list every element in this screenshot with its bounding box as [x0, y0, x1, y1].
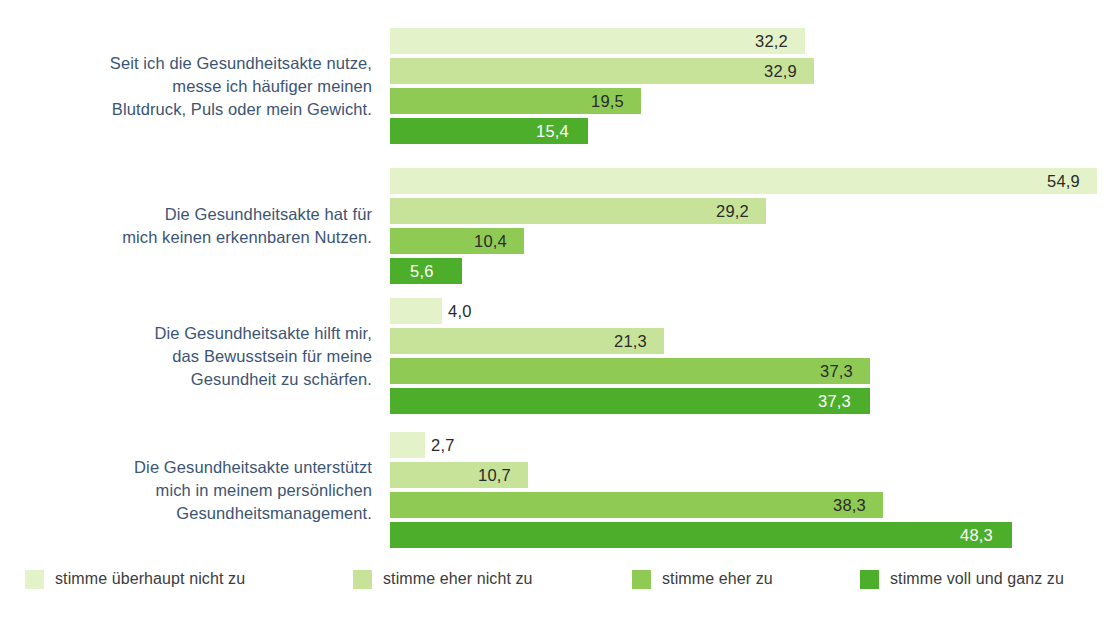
category-label: Die Gesundheitsakte hat fürmich keinen e…: [0, 203, 372, 249]
legend-item[interactable]: stimme überhaupt nicht zu: [25, 566, 245, 592]
bar-value-label: 38,3: [833, 492, 866, 518]
bar-value-label: 21,3: [614, 328, 647, 354]
bar: [390, 198, 766, 224]
category-label: Die Gesundheitsakte unterstütztmich in m…: [0, 456, 372, 525]
category-label-line: das Bewusstsein für meine: [0, 345, 372, 368]
category-label: Seit ich die Gesundheitsakte nutze,messe…: [0, 52, 372, 121]
legend-item[interactable]: stimme eher zu: [632, 566, 773, 592]
bar-group: Die Gesundheitsakte unterstütztmich in m…: [0, 432, 1115, 548]
bar-value-label: 10,4: [474, 228, 507, 254]
bar: [390, 168, 1097, 194]
bar-value-label: 10,7: [478, 462, 511, 488]
bar-value-label: 15,4: [536, 118, 569, 144]
category-label-line: messe ich häufiger meinen: [0, 75, 372, 98]
bar-value-label: 32,2: [755, 28, 788, 54]
bar-value-label: 5,6: [410, 258, 434, 284]
category-label-line: Gesundheitsmanagement.: [0, 502, 372, 525]
bar-value-label: 19,5: [591, 88, 624, 114]
legend-swatch-icon: [353, 570, 372, 589]
bar: [390, 522, 1012, 548]
legend-item[interactable]: stimme voll und ganz zu: [860, 566, 1064, 592]
bar: [390, 298, 442, 324]
bar-value-label: 48,3: [960, 522, 993, 548]
bar-value-label: 2,7: [431, 432, 455, 458]
bar-group: Seit ich die Gesundheitsakte nutze,messe…: [0, 28, 1115, 144]
category-label-line: Die Gesundheitsakte unterstützt: [0, 456, 372, 479]
bar: [390, 58, 814, 84]
grouped-bar-chart: Seit ich die Gesundheitsakte nutze,messe…: [0, 0, 1115, 622]
legend-label: stimme voll und ganz zu: [890, 570, 1064, 588]
bar: [390, 432, 425, 458]
category-label-line: Die Gesundheitsakte hat für: [0, 203, 372, 226]
bar-value-label: 54,9: [1047, 168, 1080, 194]
category-label-line: Blutdruck, Puls oder mein Gewicht.: [0, 98, 372, 121]
bar-group: Die Gesundheitsakte hilft mir,das Bewuss…: [0, 298, 1115, 414]
bar-value-label: 32,9: [764, 58, 797, 84]
bar-value-label: 4,0: [448, 298, 472, 324]
legend-swatch-icon: [25, 570, 44, 589]
legend-item[interactable]: stimme eher nicht zu: [353, 566, 533, 592]
category-label: Die Gesundheitsakte hilft mir,das Bewuss…: [0, 322, 372, 391]
bar: [390, 358, 870, 384]
bar: [390, 388, 870, 414]
category-label-line: Seit ich die Gesundheitsakte nutze,: [0, 52, 372, 75]
bar-value-label: 29,2: [716, 198, 749, 224]
legend-swatch-icon: [632, 570, 651, 589]
legend-label: stimme eher nicht zu: [383, 570, 533, 588]
bar-group: Die Gesundheitsakte hat fürmich keinen e…: [0, 168, 1115, 284]
bar-value-label: 37,3: [818, 388, 851, 414]
legend-label: stimme überhaupt nicht zu: [55, 570, 245, 588]
chart-legend: stimme überhaupt nicht zustimme eher nic…: [0, 566, 1115, 596]
legend-label: stimme eher zu: [662, 570, 773, 588]
bar-value-label: 37,3: [820, 358, 853, 384]
bar: [390, 492, 883, 518]
category-label-line: mich in meinem persönlichen: [0, 479, 372, 502]
category-label-line: mich keinen erkennbaren Nutzen.: [0, 226, 372, 249]
category-label-line: Die Gesundheitsakte hilft mir,: [0, 322, 372, 345]
bar: [390, 28, 805, 54]
legend-swatch-icon: [860, 570, 879, 589]
category-label-line: Gesundheit zu schärfen.: [0, 368, 372, 391]
